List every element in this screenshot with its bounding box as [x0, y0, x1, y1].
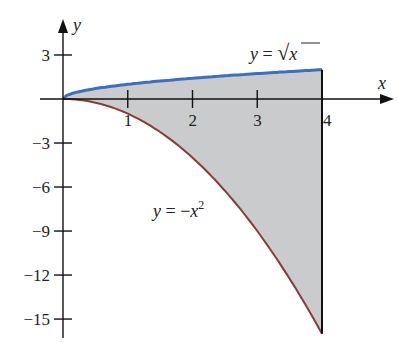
x-axis-arrow-icon: [380, 94, 394, 104]
y-axis-label: y: [71, 15, 81, 35]
x-axis-label: x: [377, 73, 386, 93]
neg-square-curve-label: y = −x2: [151, 198, 204, 221]
x-tick-label: 1: [124, 111, 133, 130]
y-tick-label: −15: [23, 310, 50, 329]
y-axis: 3−3−6−9−12−15 y: [23, 15, 81, 338]
x-tick-label: 4: [323, 111, 332, 130]
y-axis-arrow-icon: [58, 19, 68, 33]
x-tick-label: 2: [189, 111, 198, 130]
chart: 1234 x 3−3−6−9−12−15 y y = √x y = −x2: [0, 0, 397, 342]
y-tick-label: −3: [32, 134, 50, 153]
sqrt-curve-label: y = √x: [248, 40, 297, 65]
y-tick-label: 3: [42, 46, 51, 65]
y-tick-label: −9: [32, 222, 50, 241]
x-tick-label: 3: [253, 111, 262, 130]
y-ticks: 3−3−6−9−12−15: [23, 46, 72, 329]
y-tick-label: −6: [32, 178, 50, 197]
y-tick-label: −12: [23, 266, 50, 285]
